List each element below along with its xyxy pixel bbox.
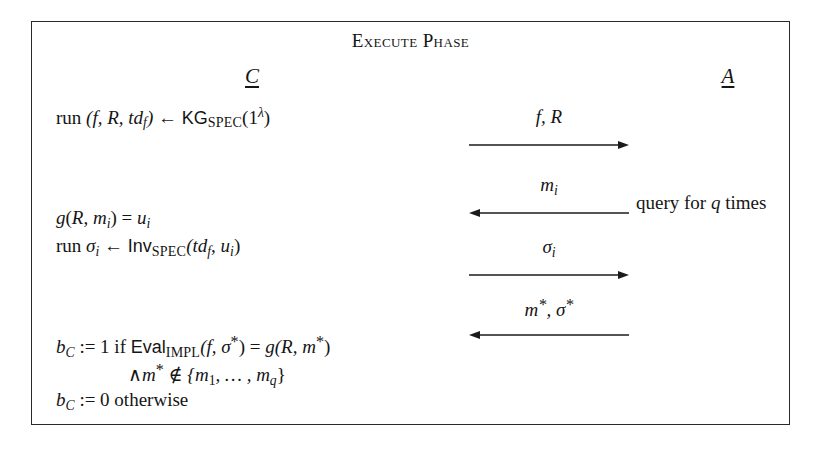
statement-freshness: ∧m* ∉ {m1, … , mq} — [128, 362, 286, 387]
annotation-query-repetition: query for q times — [636, 192, 766, 214]
keygen-prefix: run — [56, 107, 86, 128]
message-label-m-i-text: m — [540, 174, 554, 195]
fresh-set-sub2: q — [270, 373, 277, 388]
arrow-right-icon — [469, 138, 629, 152]
keygen-arrow-glyph: ← — [158, 107, 177, 128]
forgery-sig: , σ — [546, 299, 565, 320]
b1-bit: b — [56, 336, 66, 357]
arrow-left-icon — [469, 328, 629, 342]
b1-equals: = — [245, 336, 265, 357]
g-equals: = — [117, 207, 137, 228]
inv-args: (td — [186, 235, 207, 256]
keygen-tuple: (f, R, td — [86, 107, 143, 128]
b1-algorithm: Eval — [131, 337, 166, 357]
inv-prefix: run — [56, 235, 86, 256]
inv-output-sub: i — [95, 244, 99, 259]
message-label-sigma-i-sub: i — [552, 245, 556, 260]
b3-bit-sub: C — [66, 398, 75, 413]
message-label-sigma-i-text: σ — [542, 236, 551, 257]
message-arrow-f-R: f, R — [469, 106, 629, 152]
fresh-set-open: {m — [187, 364, 208, 385]
g-result: u — [137, 207, 147, 228]
message-label-forgery: m*, σ* — [469, 296, 629, 321]
challenger-symbol: C — [245, 64, 259, 88]
fresh-set-mid: , … , m — [215, 364, 269, 385]
inv-algorithm: Inv — [128, 236, 152, 256]
b1-args-open: (f, σ — [200, 336, 230, 357]
g-fn: g — [56, 207, 66, 228]
b1-assign: := 1 if — [75, 336, 131, 357]
inv-arrow-glyph: ← — [104, 235, 123, 256]
message-arrow-sigma-i: σi — [469, 236, 629, 282]
inv-args-close: ) — [234, 235, 240, 256]
fresh-notin: ∉ — [164, 364, 188, 385]
g-arg2: m — [93, 207, 107, 228]
inv-algorithm-sub: SPEC — [152, 243, 186, 259]
statement-eval-g: g(R, mi) = ui — [56, 208, 150, 231]
fresh-wedge: ∧ — [128, 364, 142, 385]
statement-verify-accept: bC := 1 if EvalIMPL(f, σ*) = g(R, m*) — [56, 334, 330, 359]
protocol-diagram-frame: Execute Phase C A run (f, R, tdf) ← KGSP… — [31, 21, 790, 425]
arrow-right-icon — [469, 268, 629, 282]
g-result-sub: i — [147, 216, 151, 231]
forgery-sig-star: * — [565, 296, 573, 313]
message-arrow-forgery: m*, σ* — [469, 296, 629, 342]
message-label-sigma-i: σi — [469, 236, 629, 261]
b1-bit-sub: C — [66, 345, 75, 360]
party-label-challenger: C — [222, 64, 282, 89]
statement-verify-reject: bC := 0 otherwise — [56, 390, 188, 413]
b1-rhs-star: * — [316, 333, 324, 350]
g-comma: , — [83, 207, 93, 228]
b1-rhs-close: ) — [324, 336, 330, 357]
diagram-title-text: Execute Phase — [352, 30, 469, 51]
b3-bit: b — [56, 389, 66, 410]
party-label-adversary: A — [698, 64, 758, 89]
keygen-arg-open: (1 — [242, 107, 258, 128]
keygen-algorithm-sub: SPEC — [208, 114, 242, 130]
message-label-m-i: mi — [469, 174, 629, 199]
message-label-f-R: f, R — [469, 106, 629, 128]
fresh-set-close: } — [277, 364, 286, 385]
message-label-m-i-sub: i — [554, 183, 558, 198]
query-note-var: q — [711, 192, 721, 213]
b1-rhs-open: (R, m — [275, 336, 316, 357]
query-note-prefix: query for — [636, 192, 711, 213]
b1-rhs-fn: g — [265, 336, 275, 357]
adversary-symbol: A — [722, 64, 735, 88]
keygen-algorithm: KG — [182, 108, 208, 128]
fresh-msg: m — [142, 364, 156, 385]
message-arrow-m-i: mi — [469, 174, 629, 220]
fresh-star: * — [156, 361, 164, 378]
message-label-f-R-text: f, R — [536, 106, 562, 127]
query-note-suffix: times — [720, 192, 766, 213]
keygen-tuple-close: ) — [147, 107, 153, 128]
inv-args-mid: , u — [211, 235, 230, 256]
forgery-msg: m — [525, 299, 539, 320]
statement-invert: run σi ← InvSPEC(tdf, ui) — [56, 236, 240, 259]
keygen-arg-close: ) — [264, 107, 270, 128]
b1-algorithm-sub: IMPL — [166, 344, 200, 360]
statement-keygen: run (f, R, tdf) ← KGSPEC(1λ) — [56, 106, 270, 130]
g-arg1: R — [72, 207, 84, 228]
arrow-left-icon — [469, 206, 629, 220]
diagram-title: Execute Phase — [32, 30, 789, 52]
b3-assign: := 0 otherwise — [75, 389, 189, 410]
b1-star: * — [231, 333, 239, 350]
